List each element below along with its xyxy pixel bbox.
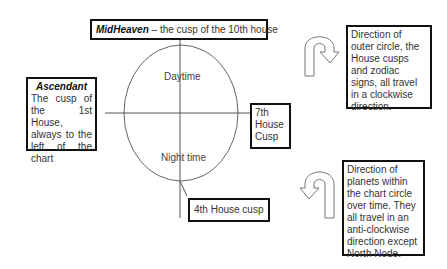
planet-direction-callout: Direction of planets within the chart ci…	[342, 160, 425, 256]
anticlockwise-arrow-icon	[300, 172, 334, 218]
ascendant-text: The cusp of the 1st House, always to the…	[31, 93, 92, 164]
ascendant-callout: Ascendant The cusp of the 1st House, alw…	[26, 77, 97, 151]
midheaven-title: MidHeaven	[96, 24, 149, 35]
midheaven-text: – the cusp of the 10th house	[149, 24, 278, 35]
clockwise-arrow-icon	[305, 37, 339, 76]
outer-direction-text: Direction of outer circle, the House cus…	[351, 29, 419, 112]
planet-direction-text: Direction of planets within the chart ci…	[347, 164, 417, 259]
nighttime-label: Night time	[161, 152, 206, 163]
midheaven-callout: MidHeaven – the cusp of the 10th house	[90, 19, 268, 40]
daytime-label: Daytime	[164, 71, 201, 82]
seventh-house-text: 7th House Cusp	[255, 107, 284, 142]
outer-direction-callout: Direction of outer circle, the House cus…	[346, 25, 432, 109]
fourth-house-text: 4th House cusp	[194, 204, 264, 215]
fourth-house-pointer	[180, 181, 187, 196]
fourth-house-callout: 4th House cusp	[188, 198, 270, 222]
ascendant-title: Ascendant	[31, 81, 92, 93]
seventh-house-callout: 7th House Cusp	[250, 103, 291, 149]
